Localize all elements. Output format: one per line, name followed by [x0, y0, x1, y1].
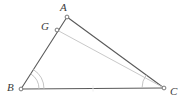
angle-mark-group	[31, 70, 147, 89]
vertex-marker-c[interactable]	[162, 86, 166, 90]
angle-arc-b-inner	[31, 74, 39, 89]
vertex-marker-b[interactable]	[19, 87, 23, 91]
vertex-label-c: C	[170, 86, 177, 97]
vertex-label-b: B	[7, 82, 14, 93]
vertex-label-g: G	[41, 21, 49, 32]
vertex-marker-g[interactable]	[55, 28, 59, 32]
vertex-marker-a[interactable]	[65, 15, 69, 19]
segment-b-c	[21, 88, 164, 89]
geometry-figure: A G B C	[0, 0, 188, 105]
figure-canvas	[0, 0, 188, 105]
vertex-label-a: A	[60, 2, 67, 13]
segment-g-c	[57, 30, 164, 88]
segment-a-c	[67, 17, 164, 88]
